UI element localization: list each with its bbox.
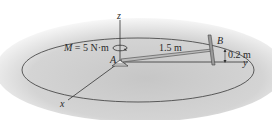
moment-label: M = 5 N·m bbox=[63, 42, 109, 53]
point-a-label: A bbox=[109, 54, 117, 65]
z-axis-label: z bbox=[116, 10, 121, 21]
length-ab-label: 1.5 m bbox=[159, 42, 182, 53]
height-b-label: 0.2 m bbox=[228, 49, 251, 60]
diagram-canvas: z y x M = 5 N·m A B 1.5 m 0.2 m bbox=[0, 0, 272, 120]
point-b-label: B bbox=[217, 35, 223, 46]
x-axis-label: x bbox=[59, 98, 65, 109]
background-shade bbox=[0, 18, 272, 120]
